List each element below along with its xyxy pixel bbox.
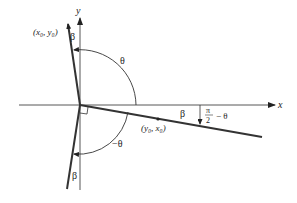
beta-label-right: β bbox=[180, 108, 185, 119]
right-angle-marker bbox=[80, 107, 88, 114]
pi-suffix: − θ bbox=[216, 111, 228, 121]
rotation-diagram: x y θ −θ β β β π 2 − θ (x₀, y₀) (y₀, x₀) bbox=[0, 0, 297, 203]
beta-label-bottom: β bbox=[72, 170, 77, 181]
x-axis-label: x bbox=[277, 99, 283, 110]
rotated-line-right bbox=[80, 105, 262, 137]
point-label-x0-y0: (x₀, y₀) bbox=[33, 27, 58, 37]
theta-label-lower: −θ bbox=[112, 138, 123, 149]
pi-denominator: 2 bbox=[206, 116, 210, 125]
y-axis-label: y bbox=[75, 5, 81, 16]
pi-numerator: π bbox=[206, 106, 210, 115]
beta-label-top: β bbox=[70, 31, 75, 42]
point-label-y0-x0: (y₀, x₀) bbox=[141, 123, 166, 133]
point-y0-x0 bbox=[156, 117, 159, 120]
theta-arc-upper bbox=[74, 50, 136, 105]
theta-label-upper: θ bbox=[120, 55, 125, 66]
